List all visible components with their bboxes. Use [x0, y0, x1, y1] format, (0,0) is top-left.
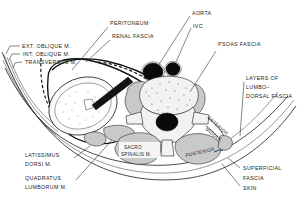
label-skin: SKIN [243, 185, 257, 191]
label-superficial: SUPERFICIAL [243, 165, 282, 171]
ivc-lumen [166, 63, 180, 76]
label-int-oblique: INT. OBLIQUE M. [23, 51, 70, 57]
label-layers-line3: DORSAL FASCIA [246, 93, 293, 99]
leader-superficial-fascia [228, 158, 240, 168]
label-ext-oblique: EXT. OBLIQUE M. [22, 43, 71, 49]
label-sacro-line2: SPINALIS M. [121, 152, 151, 157]
label-quadratus-line2: LUMBORUM M. [25, 184, 67, 190]
label-latissimus-line2: DORSI M. [25, 161, 52, 167]
transverse-process-left [126, 112, 143, 124]
label-renal-fascia: RENAL FASCIA [112, 33, 154, 39]
label-quadratus-line1: QUADRATUS [25, 175, 61, 181]
leader-ext-oblique [6, 46, 20, 54]
label-layers-line1: LAYERS OF [246, 75, 279, 81]
cross-section-drawing: EXT. OBLIQUE M. INT. OBLIQUE M. TRANSVER… [0, 0, 300, 200]
anatomical-figure: EXT. OBLIQUE M. INT. OBLIQUE M. TRANSVER… [0, 0, 300, 200]
label-ivc: IVC [193, 23, 203, 29]
label-sacro-line1: SACRO [124, 145, 142, 150]
leader-skin [222, 164, 240, 186]
leader-ivc [176, 28, 191, 62]
leader-transversus [13, 62, 22, 68]
spinal-canal [156, 113, 178, 131]
label-psoas-fascia: PSOAS FASCIA [218, 41, 261, 47]
label-latissimus-line1: LATISSIMUS [25, 152, 60, 158]
label-fascia: FASCIA [243, 175, 264, 181]
label-aorta: AORTA [192, 10, 212, 16]
leader-renal-fascia [86, 40, 110, 62]
label-peritoneum: PERITONEUM [110, 20, 149, 26]
leader-psoas-fascia [190, 51, 216, 92]
leader-layers-lumbodorsal [240, 82, 244, 136]
label-transversus: TRANSVERSUS M. [25, 59, 77, 65]
latissimus-dorsi-muscle [84, 132, 106, 146]
label-layers-line2: LUMBO– [246, 84, 270, 90]
leader-int-oblique [9, 54, 20, 60]
spinous-process [161, 140, 174, 156]
